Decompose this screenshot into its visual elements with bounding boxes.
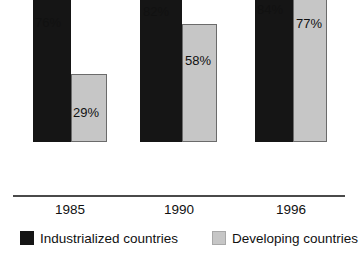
chart-legend: Industrialized countries Developing coun… [0,228,361,253]
legend-item-developing: Developing countries [212,228,358,248]
legend-item-industrialized: Industrialized countries [20,228,178,248]
x-axis-tick-1996: 1996 [266,203,316,217]
legend-label-industrialized: Industrialized countries [40,231,178,246]
value-label-industrialized-1996: 84% [257,3,283,16]
plot-area: 76% 29% 82% 58% 84% 77% 1985 1990 1996 [0,0,361,200]
light-swatch-icon [212,231,226,245]
legend-label-developing: Developing countries [232,231,358,246]
x-axis-tick-1990: 1990 [154,203,204,217]
bar-industrialized-1990 [140,0,182,142]
value-label-developing-1990: 58% [185,54,211,67]
x-axis-tick-1985: 1985 [45,203,95,217]
value-label-industrialized-1990: 82% [143,5,169,18]
bar-industrialized-1996 [255,0,293,142]
bar-chart: 76% 29% 82% 58% 84% 77% 1985 1990 1996 I… [0,0,361,253]
value-label-industrialized-1985: 76% [35,16,61,29]
value-label-developing-1996: 77% [296,17,322,30]
bar-developing-1990 [182,24,217,142]
x-axis-line [13,195,345,197]
value-label-developing-1985: 29% [73,106,99,119]
dark-swatch-icon [20,231,34,245]
